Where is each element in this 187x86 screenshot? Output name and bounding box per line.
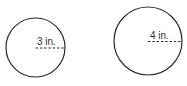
circles-diagram: 3 in. 4 in. bbox=[0, 0, 187, 86]
radius-label-small: 3 in. bbox=[37, 36, 56, 47]
radius-label-large: 4 in. bbox=[150, 30, 169, 41]
circle-small: 3 in. bbox=[6, 18, 65, 77]
circle-large: 4 in. bbox=[114, 7, 182, 75]
